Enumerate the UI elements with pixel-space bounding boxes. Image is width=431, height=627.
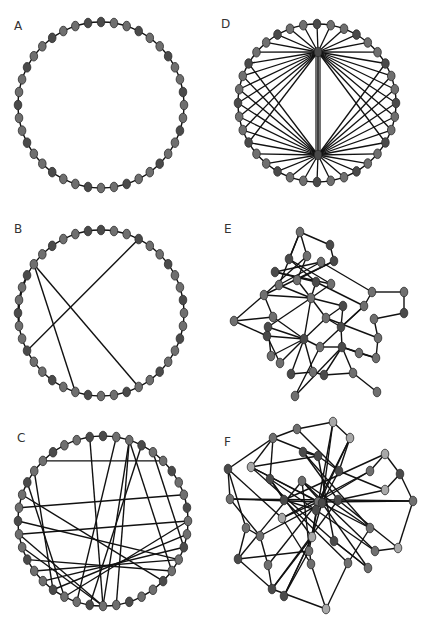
network-node (286, 172, 294, 182)
network-edge (324, 373, 353, 375)
network-node (84, 18, 92, 28)
network-node (253, 149, 261, 159)
network-edge (273, 438, 318, 456)
network-node (314, 47, 322, 57)
network-node (263, 331, 271, 341)
network-node (15, 529, 23, 539)
network-node (138, 440, 146, 450)
network-node (330, 256, 338, 266)
network-node (61, 440, 69, 450)
network-edge (280, 339, 304, 363)
panel-label-b: B (14, 222, 22, 236)
network-node (305, 546, 313, 556)
network-edge (273, 317, 304, 339)
panel-label-c: C (17, 431, 25, 445)
network-node (391, 84, 399, 94)
network-node (267, 351, 275, 361)
network-node (30, 149, 38, 159)
network-node (30, 566, 38, 576)
network-edge (34, 264, 139, 387)
network-node (175, 555, 183, 565)
network-node (49, 585, 57, 595)
network-node (264, 322, 272, 332)
network-node (247, 462, 255, 472)
network-node (99, 431, 107, 441)
network-node (239, 125, 247, 135)
network-node (39, 456, 47, 466)
network-node (60, 234, 68, 244)
network-edge (251, 456, 318, 467)
network-node (360, 301, 368, 311)
network-node (307, 293, 315, 303)
network-node (146, 375, 154, 385)
network-node (84, 182, 92, 192)
network-node (176, 75, 184, 85)
network-node (327, 20, 335, 30)
network-node (262, 159, 270, 169)
network-node (346, 433, 354, 443)
network-node (260, 290, 268, 300)
network-node (18, 283, 26, 293)
network-node (340, 24, 348, 34)
network-node (235, 112, 243, 122)
network-node (84, 390, 92, 400)
network-edge (266, 42, 318, 52)
network-node (366, 523, 374, 533)
network-edge (338, 500, 413, 501)
network-node (326, 240, 334, 250)
panel-label-f: F (224, 435, 231, 449)
network-node (353, 167, 361, 177)
network-node (156, 159, 164, 169)
network-node (280, 591, 288, 601)
network-node (156, 367, 164, 377)
network-node (314, 451, 322, 461)
network-edge (234, 317, 273, 321)
network-edge (318, 35, 357, 52)
network-node (368, 287, 376, 297)
network-node (318, 498, 326, 508)
network-node (73, 435, 81, 445)
network-node (168, 466, 176, 476)
nodes (14, 225, 188, 401)
network-edge (311, 564, 326, 609)
network-node (286, 24, 294, 34)
network-node (18, 542, 26, 552)
network-node (264, 560, 272, 570)
network-edge (318, 29, 344, 52)
panel-c (14, 431, 192, 611)
network-edge (249, 64, 318, 156)
network-node (299, 447, 307, 457)
network-edge (234, 295, 264, 321)
network-node (135, 234, 143, 244)
network-node (372, 353, 380, 363)
panel-f (224, 417, 417, 614)
network-edge (266, 155, 318, 164)
network-node (110, 18, 118, 28)
network-node (285, 254, 293, 264)
network-node (23, 271, 31, 281)
network-node (156, 250, 164, 260)
network-node (39, 159, 47, 169)
network-node (293, 424, 301, 434)
network-node (298, 476, 306, 486)
panel-a (14, 17, 188, 193)
network-node (391, 112, 399, 122)
network-node (274, 167, 282, 177)
network-node (374, 47, 382, 57)
network-node (183, 503, 191, 513)
network-node (262, 38, 270, 48)
panel-label-d: D (221, 17, 230, 31)
network-node (30, 51, 38, 61)
network-node (312, 277, 320, 287)
network-node (175, 478, 183, 488)
network-node (39, 576, 47, 586)
network-node (256, 531, 264, 541)
network-node (330, 536, 338, 546)
network-edge (297, 422, 333, 429)
network-node (303, 251, 311, 261)
network-node (146, 167, 154, 177)
network-node (18, 75, 26, 85)
network-node (234, 98, 242, 108)
network-node (340, 172, 348, 182)
network-edge (318, 42, 368, 52)
